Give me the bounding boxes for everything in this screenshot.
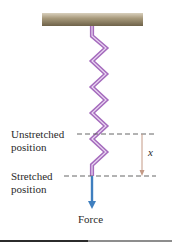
spring-diagram xyxy=(0,0,172,242)
spring xyxy=(92,26,106,176)
unstretched-label-line2: position xyxy=(11,141,64,154)
displacement-arrow xyxy=(140,134,145,176)
displacement-label: x xyxy=(148,146,153,159)
stretched-position-label: Stretched position xyxy=(11,170,53,196)
unstretched-label-line1: Unstretched xyxy=(11,128,64,141)
force-label: Force xyxy=(78,213,103,226)
force-arrow xyxy=(88,176,96,209)
stretched-label-line1: Stretched xyxy=(11,170,53,183)
stretched-label-line2: position xyxy=(11,183,53,196)
unstretched-position-label: Unstretched position xyxy=(11,128,64,154)
